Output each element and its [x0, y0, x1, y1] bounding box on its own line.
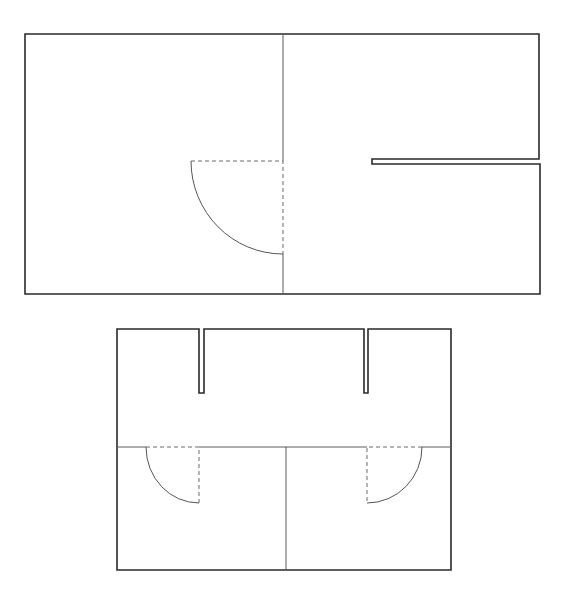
floor-plan-canvas — [0, 0, 568, 595]
background — [0, 0, 568, 595]
